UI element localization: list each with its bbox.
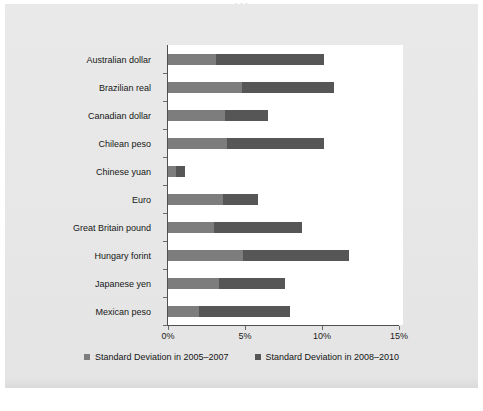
x-axis-tick-label-1: 5% — [238, 331, 251, 341]
legend-swatch-series-1 — [84, 354, 90, 360]
chart-legend: Standard Deviation in 2005–2007 Standard… — [5, 352, 478, 362]
bar-segment[interactable] — [168, 138, 227, 149]
legend-item-0[interactable]: Standard Deviation in 2005–2007 — [84, 352, 229, 362]
category-label-4: Chinese yuan — [96, 167, 151, 177]
y-axis-tick-0 — [163, 73, 167, 74]
bar-segment[interactable] — [225, 110, 268, 121]
legend-swatch-series-2 — [255, 354, 261, 360]
x-axis-tick-label-3: 15% — [390, 331, 408, 341]
bar-segment[interactable] — [223, 194, 258, 205]
bar-segment[interactable] — [243, 250, 349, 261]
y-axis-tick-3 — [163, 157, 167, 158]
y-axis-tick-2 — [163, 129, 167, 130]
bar-segment[interactable] — [168, 222, 214, 233]
bar-segment[interactable] — [214, 222, 302, 233]
bar-segment[interactable] — [168, 82, 242, 93]
category-label-8: Japanese yen — [95, 279, 151, 289]
x-axis-line — [167, 325, 399, 326]
x-axis-tick-label-0: 0% — [161, 331, 174, 341]
category-label-6: Great Britain pound — [73, 223, 151, 233]
legend-label-series-1: Standard Deviation in 2005–2007 — [95, 352, 229, 362]
bar-segment[interactable] — [242, 82, 334, 93]
y-axis-tick-8 — [163, 297, 167, 298]
y-axis-tick-4 — [163, 185, 167, 186]
category-label-1: Brazilian real — [99, 83, 151, 93]
bar-segment[interactable] — [168, 250, 243, 261]
y-axis-tick-6 — [163, 241, 167, 242]
bar-segment[interactable] — [227, 138, 324, 149]
bar-segment[interactable] — [176, 166, 185, 177]
x-axis-tick-2 — [322, 326, 323, 330]
bar-segment[interactable] — [199, 306, 290, 317]
legend-item-1[interactable]: Standard Deviation in 2008–2010 — [255, 352, 400, 362]
y-axis-tick-5 — [163, 213, 167, 214]
category-label-0: Australian dollar — [86, 55, 151, 65]
category-label-3: Chilean peso — [98, 139, 151, 149]
bar-segment[interactable] — [168, 54, 216, 65]
bar-segment[interactable] — [168, 306, 199, 317]
legend-label-series-2: Standard Deviation in 2008–2010 — [266, 352, 400, 362]
bar-segment[interactable] — [216, 54, 324, 65]
category-label-5: Euro — [132, 195, 151, 205]
bar-segment[interactable] — [219, 278, 285, 289]
x-axis-tick-1 — [245, 326, 246, 330]
category-label-7: Hungary forint — [94, 251, 151, 261]
category-label-2: Canadian dollar — [88, 111, 151, 121]
chart-page: · · · 0%5%10%15%Australian dollarBrazili… — [0, 0, 483, 411]
bar-segment[interactable] — [168, 110, 225, 121]
scanned-figure-area: 0%5%10%15%Australian dollarBrazilian rea… — [5, 4, 478, 388]
x-axis-tick-3 — [399, 326, 400, 330]
bar-segment[interactable] — [168, 278, 219, 289]
category-label-9: Mexican peso — [95, 307, 151, 317]
bar-segment[interactable] — [168, 194, 223, 205]
y-axis-tick-7 — [163, 269, 167, 270]
y-axis-tick-9 — [163, 325, 167, 326]
y-axis-tick-1 — [163, 101, 167, 102]
x-axis-tick-label-2: 10% — [313, 331, 331, 341]
x-axis-tick-0 — [168, 326, 169, 330]
bar-segment[interactable] — [168, 166, 176, 177]
